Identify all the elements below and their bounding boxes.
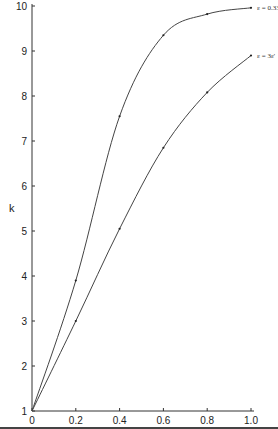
y-tick-label: 10 xyxy=(16,1,28,12)
y-tick-label: 8 xyxy=(21,91,27,102)
series-0: ε = 0.33 xyxy=(32,4,278,411)
series-line xyxy=(32,56,251,412)
data-point xyxy=(162,34,164,36)
data-point xyxy=(206,91,208,93)
y-tick-label: 1 xyxy=(21,406,27,417)
series-1: ε = 3ε' xyxy=(32,52,275,411)
data-point xyxy=(162,147,164,149)
data-point xyxy=(206,13,208,15)
x-tick-label: 0.4 xyxy=(113,415,127,426)
data-point xyxy=(75,320,77,322)
y-axis-label: k xyxy=(9,202,15,214)
series-label: ε = 3ε' xyxy=(257,52,275,60)
x-tick-label: 0.2 xyxy=(69,415,83,426)
x-tick-label: 0.6 xyxy=(156,415,170,426)
x-tick-label: 0 xyxy=(29,415,35,426)
data-point xyxy=(119,115,121,117)
chart: 12345678910 00.20.40.60.81.0 k ε = 0.33ε… xyxy=(0,0,278,429)
y-tick-label: 7 xyxy=(21,136,27,147)
x-tick-label: 0.8 xyxy=(200,415,214,426)
data-point xyxy=(250,7,252,9)
y-tick-label: 6 xyxy=(21,181,27,192)
series-line xyxy=(32,8,251,411)
y-tick-label: 9 xyxy=(21,46,27,57)
y-tick-label: 3 xyxy=(21,316,27,327)
data-point xyxy=(250,54,252,56)
data-point xyxy=(75,279,77,281)
series-label: ε = 0.33 xyxy=(257,4,278,12)
y-tick-label: 5 xyxy=(21,226,27,237)
y-tick-label: 2 xyxy=(21,361,27,372)
series-group: ε = 0.33ε = 3ε' xyxy=(32,4,278,411)
x-tick-label: 1.0 xyxy=(244,415,258,426)
y-tick-label: 4 xyxy=(21,271,27,282)
data-point xyxy=(119,228,121,230)
